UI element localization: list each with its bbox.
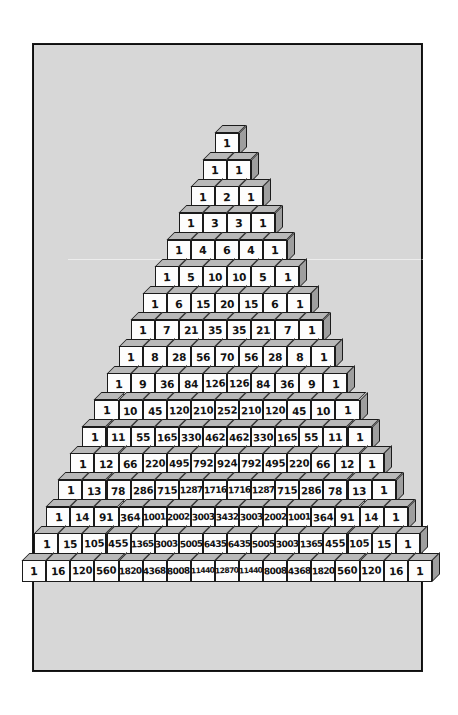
block-number: 330: [253, 432, 274, 443]
block-number: 35: [208, 325, 223, 336]
pascal-block: 5: [251, 266, 275, 288]
block-front-face: 120: [360, 560, 384, 582]
block-number: 1: [187, 218, 195, 229]
block-front-face: 455: [323, 533, 347, 555]
block-front-face: 15: [372, 533, 396, 555]
block-number: 105: [84, 539, 105, 550]
pascal-block: 5005: [179, 533, 203, 555]
block-number: 11: [328, 432, 343, 443]
block-number: 3: [211, 218, 219, 229]
block-number: 56: [244, 352, 259, 363]
block-front-face: 1: [408, 560, 432, 582]
pascal-block: 11440: [239, 560, 263, 582]
block-number: 120: [361, 566, 382, 577]
block-number: 560: [337, 566, 358, 577]
pascal-block: 12870: [215, 560, 239, 582]
block-number: 15: [196, 298, 211, 309]
block-number: 1287: [252, 486, 275, 496]
block-number: 1: [54, 512, 62, 523]
pascal-block: 455: [107, 533, 131, 555]
block-number: 84: [184, 379, 199, 390]
block-number: 91: [340, 512, 355, 523]
block-number: 364: [313, 512, 334, 523]
block-number: 4368: [288, 566, 311, 576]
block-front-face: 1820: [311, 560, 335, 582]
block-number: 45: [292, 405, 307, 416]
block-number: 21: [184, 325, 199, 336]
pascal-block: 4368: [143, 560, 167, 582]
block-number: 364: [120, 512, 141, 523]
block-number: 9: [139, 378, 147, 389]
block-number: 715: [156, 485, 177, 496]
block-number: 1: [356, 432, 364, 443]
pascal-block: 5005: [251, 533, 275, 555]
block-number: 1: [295, 298, 303, 309]
block-front-face: 8008: [167, 560, 191, 582]
block-number: 10: [232, 272, 247, 283]
block-number: 14: [75, 512, 90, 523]
block-front-face: 10: [203, 266, 227, 288]
block-number: 21: [256, 325, 271, 336]
block-number: 3003: [240, 513, 263, 523]
block-number: 1: [344, 405, 352, 416]
block-number: 495: [168, 459, 189, 470]
block-number: 5005: [179, 539, 202, 549]
block-number: 1365: [300, 539, 323, 549]
block-number: 1: [259, 218, 267, 229]
block-number: 1820: [119, 566, 142, 576]
pascal-block: 3003: [275, 533, 299, 555]
block-number: 220: [144, 459, 165, 470]
block-number: 56: [196, 352, 211, 363]
block-number: 1: [127, 352, 135, 363]
block-number: 1: [404, 539, 412, 550]
block-number: 2: [223, 192, 231, 203]
block-number: 1: [90, 432, 98, 443]
block-number: 220: [289, 459, 310, 470]
block-number: 2002: [167, 513, 190, 523]
block-number: 105: [349, 539, 370, 550]
block-number: 1: [368, 459, 376, 470]
block-number: 8008: [264, 566, 287, 576]
block-number: 6: [271, 298, 279, 309]
block-number: 455: [325, 539, 346, 550]
block-number: 1: [30, 565, 38, 576]
block-number: 792: [241, 459, 262, 470]
block-number: 924: [217, 459, 238, 470]
block-number: 36: [280, 379, 295, 390]
block-number: 6435: [203, 539, 226, 549]
block-number: 1: [235, 165, 243, 176]
block-number: 12870: [215, 567, 239, 576]
block-number: 55: [304, 432, 319, 443]
block-front-face: 105: [348, 533, 372, 555]
pascal-block: 16: [46, 560, 70, 582]
block-number: 14: [364, 512, 379, 523]
block-number: 1: [211, 165, 219, 176]
pascal-block: 3003: [155, 533, 179, 555]
pascal-block: 560: [335, 560, 359, 582]
block-number: 8008: [167, 566, 190, 576]
block-number: 15: [244, 298, 259, 309]
block-number: 9: [307, 378, 315, 389]
pascal-block: 1820: [119, 560, 143, 582]
block-number: 1: [392, 512, 400, 523]
block-number: 120: [168, 405, 189, 416]
block-front-face: 1365: [299, 533, 323, 555]
pascal-block: 1365: [299, 533, 323, 555]
block-front-face: 5005: [179, 533, 203, 555]
block-front-face: 16: [46, 560, 70, 582]
block-front-face: 12870: [215, 560, 239, 582]
pascal-block: 1: [408, 560, 432, 582]
block-number: 1: [103, 405, 111, 416]
block-number: 11: [111, 432, 126, 443]
block-number: 1: [307, 325, 315, 336]
block-number: 15: [376, 539, 391, 550]
pascal-block: 4368: [287, 560, 311, 582]
block-number: 78: [328, 485, 343, 496]
pascal-block: 6435: [203, 533, 227, 555]
block-number: 12: [340, 459, 355, 470]
block-number: 330: [180, 432, 201, 443]
block-number: 10: [123, 405, 138, 416]
block-number: 3003: [191, 513, 214, 523]
block-number: 1: [78, 459, 86, 470]
block-number: 7: [283, 325, 291, 336]
